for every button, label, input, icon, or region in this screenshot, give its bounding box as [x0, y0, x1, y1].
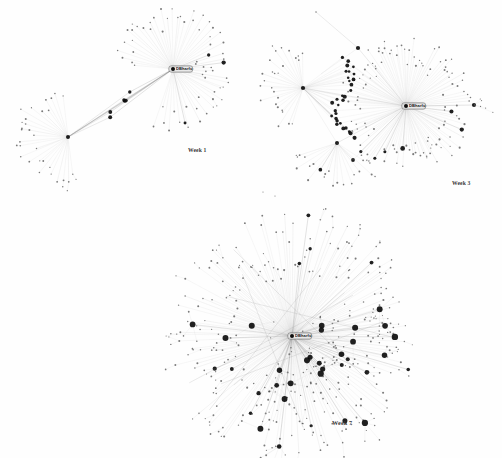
graph-node: [315, 11, 317, 13]
graph-node: [366, 430, 367, 431]
graph-node: [192, 418, 193, 419]
graph-edge: [337, 143, 363, 160]
graph-node: [269, 59, 271, 61]
graph-node: [320, 449, 322, 451]
graph-node: [456, 115, 457, 116]
graph-node: [319, 327, 324, 332]
graph-node: [238, 424, 239, 425]
hub-label: DBharfu: [402, 103, 426, 109]
graph-node: [175, 275, 176, 276]
graph-node: [387, 332, 388, 333]
graph-edge: [43, 137, 68, 161]
graph-edge: [223, 336, 292, 428]
graph-node: [337, 247, 339, 249]
hub-label: DBharfu: [288, 333, 312, 339]
graph-node: [381, 61, 383, 63]
graph-node: [408, 375, 410, 377]
graph-node: [352, 65, 355, 68]
graph-node: [249, 323, 255, 329]
graph-node: [368, 160, 369, 161]
graph-node: [400, 146, 405, 151]
graph-node: [49, 167, 50, 168]
graph-node: [170, 333, 172, 335]
graph-node: [173, 110, 175, 112]
graph-node: [235, 247, 237, 249]
graph-edge: [375, 106, 406, 158]
graph-node: [196, 362, 198, 364]
graph-edge: [169, 337, 179, 341]
graph-node: [374, 425, 375, 426]
graph-node: [409, 149, 411, 151]
graph-edge: [303, 71, 349, 88]
graph-node: [442, 94, 444, 96]
graph-node: [261, 215, 263, 217]
graph-edge: [73, 174, 76, 179]
graph-node: [379, 439, 381, 441]
graph-node: [324, 361, 326, 363]
graph-edge: [205, 415, 213, 418]
graph-edge: [20, 137, 68, 146]
graph-edge: [224, 336, 292, 362]
graph-node: [367, 153, 369, 155]
graph-node: [408, 49, 410, 51]
graph-node: [386, 346, 388, 348]
graph-node: [352, 363, 354, 365]
graph-node: [361, 154, 363, 156]
graph-edge: [303, 88, 336, 113]
graph-edge: [171, 341, 179, 344]
graph-edge: [21, 137, 68, 157]
hub-node-marker: [290, 334, 294, 338]
graph-node: [132, 51, 134, 53]
graph-node: [275, 103, 277, 105]
graph-node: [216, 262, 218, 264]
graph-node: [396, 151, 398, 153]
graph-node: [382, 338, 383, 339]
graph-node: [304, 357, 310, 363]
graph-edge: [273, 410, 277, 420]
graph-node: [357, 363, 358, 364]
graph-node: [226, 77, 228, 79]
graph-node: [215, 393, 217, 395]
graph-node: [390, 49, 391, 50]
graph-node: [384, 41, 385, 42]
graph-node: [459, 147, 461, 149]
graph-node: [212, 249, 214, 251]
graph-node: [320, 219, 322, 221]
graph-edge: [320, 143, 337, 170]
graph-node: [288, 50, 290, 52]
hub-label-text: DBharfu: [176, 66, 193, 71]
graph-edge: [406, 73, 464, 106]
graph-node: [387, 356, 388, 357]
graph-edge: [320, 209, 323, 219]
graph-node: [330, 101, 334, 105]
graph-node: [438, 127, 440, 129]
graph-node: [352, 78, 356, 82]
graph-edge: [406, 60, 446, 106]
graph-node: [214, 91, 216, 93]
graph-node: [404, 48, 405, 49]
graph-node: [444, 120, 446, 122]
graph-node: [332, 185, 334, 187]
graph-node: [199, 120, 201, 122]
graph-edge: [263, 254, 268, 262]
graph-node: [288, 241, 290, 243]
graph-node: [268, 429, 270, 431]
graph-node: [470, 97, 472, 99]
graph-node: [268, 261, 269, 262]
graph-node: [207, 53, 210, 56]
graph-node: [480, 98, 481, 99]
graph-edge: [20, 137, 68, 142]
graph-node: [353, 136, 357, 140]
graph-node: [300, 395, 301, 396]
graph-node: [412, 153, 414, 155]
graph-node: [241, 379, 243, 381]
graph-node: [274, 73, 276, 75]
graph-node: [372, 312, 373, 313]
graph-node: [282, 396, 288, 402]
graph-node: [337, 382, 339, 384]
graph-node: [188, 311, 190, 313]
graph-node: [380, 287, 382, 289]
graph-node: [275, 50, 277, 52]
graph-edge: [216, 336, 292, 380]
graph-node: [166, 335, 167, 336]
